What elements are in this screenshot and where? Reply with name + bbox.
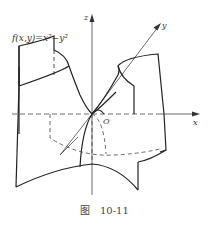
saddle-surface — [16, 36, 166, 190]
y-arrow-icon — [154, 23, 162, 31]
z-axis — [90, 14, 95, 195]
origin-label: O — [103, 117, 110, 126]
z-axis-label: z — [83, 13, 89, 22]
x-axis-label: x — [193, 118, 198, 127]
saddle-surface-diagram: f(x,y)=x²−y² z y x O 图 10-11 — [0, 0, 211, 230]
function-label: f(x,y)=x²−y² — [11, 33, 68, 43]
y-axis-label: y — [161, 21, 167, 30]
x-axis — [12, 112, 200, 117]
z-arrow-icon — [90, 14, 95, 22]
caption-number: 10-11 — [100, 205, 129, 216]
caption-prefix: 图 — [80, 205, 90, 216]
x-arrow-icon — [192, 112, 200, 117]
y-axis — [60, 23, 161, 155]
